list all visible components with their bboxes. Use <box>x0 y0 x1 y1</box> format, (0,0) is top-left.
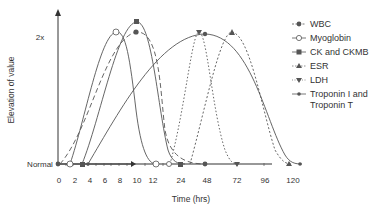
x-tick: 48 <box>203 176 212 185</box>
myoglobin-curve <box>70 32 156 164</box>
x-tick: 4 <box>88 176 93 185</box>
svg-text:Troponin T: Troponin T <box>310 100 354 110</box>
x-axis-label: Time (hrs) <box>172 194 211 204</box>
y-tick-normal: Normal <box>27 160 53 169</box>
wbc-peak-marker <box>133 29 138 34</box>
svg-text:CK and CKMB: CK and CKMB <box>310 47 369 57</box>
y-tick-2x: 2x <box>36 33 44 42</box>
legend: WBC Myoglobin CK and CKMB ESR LDH Tropon… <box>292 19 369 110</box>
myoglobin-marker <box>153 161 159 167</box>
x-tick: 0 <box>57 176 62 185</box>
legend-item-troponin: Troponin I and Troponin T <box>292 89 368 110</box>
svg-text:LDH: LDH <box>310 75 328 85</box>
ldh-curve <box>170 32 238 164</box>
x-ticks: 0 2 4 6 8 10 12 24 48 72 96 120 <box>57 176 300 185</box>
axes <box>55 9 272 167</box>
esr-peak-marker <box>229 29 235 35</box>
legend-item-ck: CK and CKMB <box>292 47 369 57</box>
esr-curve <box>190 32 292 164</box>
biomarker-chart: 2x Normal Elevation of value 0 2 4 6 8 1… <box>0 0 383 211</box>
x-tick: 10 <box>133 176 142 185</box>
x-tick: 12 <box>149 176 158 185</box>
troponin-marker <box>298 162 302 166</box>
wbc-marker <box>203 162 208 167</box>
series-curves <box>60 22 302 164</box>
y-axis-label: Elevation of value <box>6 56 16 123</box>
svg-text:WBC: WBC <box>310 19 331 29</box>
wbc-marker <box>56 162 61 167</box>
svg-text:ESR: ESR <box>310 61 329 71</box>
markers <box>56 19 302 167</box>
legend-item-wbc: WBC <box>292 19 331 29</box>
svg-text:Myoglobin: Myoglobin <box>310 33 351 43</box>
x-tick: 2 <box>73 176 78 185</box>
x-tick: 24 <box>177 176 186 185</box>
svg-text:Troponin I and: Troponin I and <box>310 89 368 99</box>
x-tick: 120 <box>286 176 300 185</box>
ck-marker <box>178 162 183 167</box>
wbc-curve <box>60 32 205 164</box>
troponin-peak-marker <box>203 32 207 36</box>
legend-item-esr: ESR <box>292 61 329 71</box>
troponin-marker <box>86 162 90 166</box>
legend-item-ldh: LDH <box>292 75 328 85</box>
ck-peak-marker <box>134 19 139 24</box>
legend-item-myoglobin: Myoglobin <box>292 33 351 43</box>
myoglobin-peak-marker <box>113 29 119 35</box>
x-tick: 72 <box>233 176 242 185</box>
myoglobin-marker <box>167 162 172 167</box>
x-tick: 6 <box>103 176 108 185</box>
x-tick: 8 <box>118 176 123 185</box>
x-tick: 96 <box>261 176 270 185</box>
ck-marker <box>80 162 85 167</box>
myoglobin-marker <box>67 161 73 167</box>
